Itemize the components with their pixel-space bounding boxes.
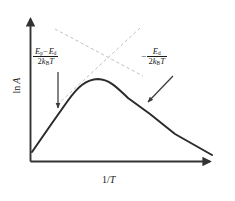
- right-fraction-denominator: 2kBT: [147, 57, 167, 66]
- y-axis-label-ln: ln: [11, 86, 22, 94]
- plot-area: [0, 0, 235, 201]
- high-temperature-asymptote-dashed-line: [55, 29, 143, 76]
- right-annotation-arrow: [148, 76, 173, 102]
- low-temperature-slope-label: Ep−Ed 2kBT: [33, 47, 58, 66]
- left-num-E2-sub: d: [54, 50, 57, 56]
- x-axis-label: 1/T: [102, 174, 115, 185]
- left-den-T: T: [49, 56, 54, 66]
- low-temperature-asymptote-dashed-line: [57, 28, 140, 105]
- right-num-E-sub: d: [158, 50, 161, 56]
- left-fraction-denominator: 2kBT: [33, 57, 58, 66]
- ln-a-curve: [32, 79, 212, 155]
- y-axis-label: lnA: [11, 69, 22, 103]
- left-num-E1-sub: p: [40, 50, 43, 56]
- right-den-T: T: [160, 56, 165, 66]
- left-den-k-sub: B: [46, 60, 50, 66]
- right-den-k-sub: B: [157, 60, 161, 66]
- high-temperature-slope-label: − Ed 2kBT: [141, 47, 167, 66]
- figure-canvas: Ep−Ed 2kBT − Ed 2kBT lnA 1/T: [0, 0, 235, 201]
- y-axis-label-var: A: [11, 78, 22, 84]
- x-axis-label-var: T: [110, 174, 116, 185]
- right-fraction: Ed 2kBT: [147, 47, 167, 66]
- left-fraction: Ep−Ed 2kBT: [33, 47, 58, 66]
